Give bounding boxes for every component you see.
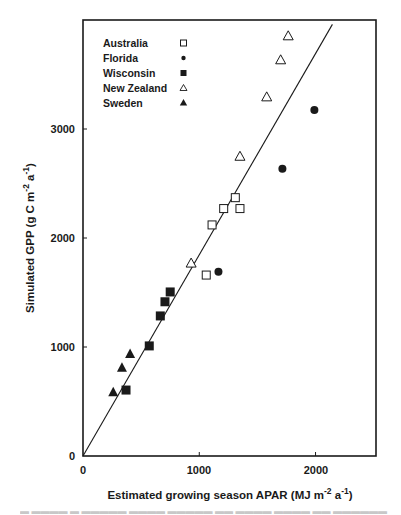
data-point-sweden xyxy=(108,387,118,397)
data-point-florida xyxy=(214,268,222,276)
data-point-florida xyxy=(310,106,318,114)
filled-circle-icon xyxy=(181,56,185,60)
scatter-chart: 0 1000 2000 0 1000 2000 3000 Estimated g… xyxy=(0,0,401,515)
data-point-wisconsin xyxy=(160,297,169,306)
data-point-wisconsin xyxy=(156,311,165,320)
data-point-sweden xyxy=(125,349,135,359)
data-point-australia xyxy=(208,221,216,229)
data-point-new-zealand xyxy=(262,92,272,101)
x-tick-label-1000: 1000 xyxy=(187,464,211,476)
y-axis-title: Simulated GPP (g C m-2 a-1) xyxy=(21,163,36,313)
legend-label-new-zealand: New Zealand xyxy=(103,82,167,94)
x-tick-label-2000: 2000 xyxy=(304,464,328,476)
legend-label-wisconsin: Wisconsin xyxy=(103,67,155,79)
data-point-new-zealand xyxy=(235,151,245,160)
data-point-wisconsin xyxy=(145,341,154,350)
y-tick-label-2000: 2000 xyxy=(51,232,75,244)
figure-caption-cutoff: ▬ ▬▬▬▬ ▬ ▬▬▬▬▬ ▬▬▬▬ ▬▬▬▬▬ ▬▬ ▬▬▬▬ ▬▬▬▬ ▬… xyxy=(20,506,400,515)
legend-label-sweden: Sweden xyxy=(103,97,143,109)
data-point-australia xyxy=(220,205,228,213)
open-square-icon xyxy=(181,40,187,46)
data-point-florida xyxy=(278,165,286,173)
data-point-australia xyxy=(236,205,244,213)
data-point-australia xyxy=(231,194,239,202)
filled-square-icon xyxy=(181,70,187,76)
x-axis-title: Estimated growing season APAR (MJ m-2 a-… xyxy=(107,486,352,501)
data-point-australia xyxy=(202,271,210,279)
data-point-wisconsin xyxy=(166,287,175,296)
data-point-new-zealand xyxy=(276,55,286,64)
axis-tick-labels: 0 1000 2000 0 1000 2000 3000 xyxy=(51,123,329,476)
legend-label-florida: Florida xyxy=(103,52,138,64)
y-tick-label-3000: 3000 xyxy=(51,123,75,135)
data-point-new-zealand xyxy=(283,31,293,40)
y-tick-label-1000: 1000 xyxy=(51,341,75,353)
x-tick-label-0: 0 xyxy=(80,464,86,476)
filled-triangle-icon xyxy=(180,99,187,106)
data-point-wisconsin xyxy=(122,386,131,395)
legend-label-australia: Australia xyxy=(103,37,148,49)
legend: Australia Florida Wisconsin New Zealand … xyxy=(103,37,187,109)
axis-ticks xyxy=(83,129,316,456)
data-point-sweden xyxy=(117,362,127,372)
y-tick-label-0: 0 xyxy=(69,450,75,462)
open-triangle-icon xyxy=(180,85,187,91)
